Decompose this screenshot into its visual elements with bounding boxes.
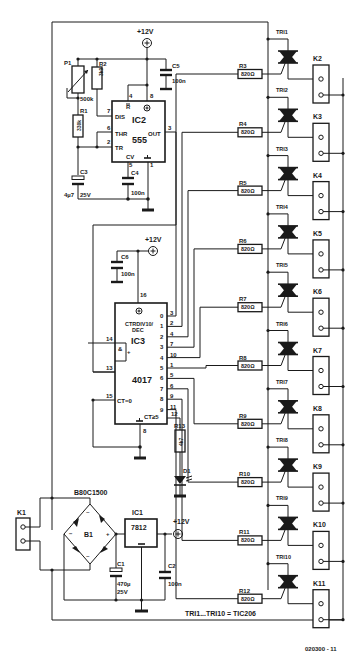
svg-text:B80C1500: B80C1500 <box>74 489 108 496</box>
schematic: +12V C5 100n 4 8 R DIS IC2 THR OUT 555 T… <box>0 0 363 668</box>
svg-text:R3: R3 <box>239 63 247 69</box>
power-supply-section: B80C1500 K1 B1 − + ~ ~ C1 470µ <box>16 489 190 620</box>
svg-text:R11: R11 <box>239 529 250 535</box>
svg-text:820Ω: 820Ω <box>241 363 255 369</box>
svg-text:C2: C2 <box>168 563 176 569</box>
svg-text:820Ω: 820Ω <box>241 304 255 310</box>
svg-text:15: 15 <box>106 393 113 399</box>
svg-text:4017: 4017 <box>132 375 152 385</box>
ic3-output-pin: 10 <box>170 352 177 358</box>
svg-text:2: 2 <box>107 139 111 145</box>
svg-text:3k9: 3k9 <box>98 67 104 76</box>
svg-text:CT=0: CT=0 <box>117 398 133 404</box>
svg-text:R7: R7 <box>239 296 247 302</box>
svg-text:CV: CV <box>126 154 134 160</box>
svg-text:~: ~ <box>86 509 90 515</box>
svg-text:K3: K3 <box>313 113 322 120</box>
ic3-output-pin: 4 <box>170 331 174 337</box>
svg-text:TRI4: TRI4 <box>276 204 289 210</box>
svg-text:R4: R4 <box>239 121 247 127</box>
svg-text:K9: K9 <box>313 463 322 470</box>
svg-text:DIS: DIS <box>115 114 125 120</box>
svg-text:D1: D1 <box>183 468 191 474</box>
svg-text:330k: 330k <box>76 120 82 131</box>
svg-text:820Ω: 820Ω <box>241 479 255 485</box>
svg-text:3: 3 <box>168 125 172 131</box>
ic3-output-pin: 3 <box>170 310 174 316</box>
svg-text:R5: R5 <box>239 180 247 186</box>
svg-text:IC1: IC1 <box>132 509 143 516</box>
svg-text:C1: C1 <box>117 561 125 567</box>
svg-text:K7: K7 <box>313 347 322 354</box>
svg-text:TRI8: TRI8 <box>276 437 288 443</box>
ic3-output-pin: 2 <box>170 320 174 326</box>
ic3-output-pin: 7 <box>170 341 174 347</box>
svg-text:K5: K5 <box>313 230 322 237</box>
svg-text:1: 1 <box>150 162 154 168</box>
svg-text:+: + <box>127 349 131 355</box>
svg-text:820Ω: 820Ω <box>241 421 255 427</box>
svg-text:R12: R12 <box>239 588 251 594</box>
svg-text:OUT: OUT <box>148 131 161 137</box>
figure-id: 020300 - 11 <box>305 646 337 652</box>
svg-text:820Ω: 820Ω <box>241 246 255 252</box>
svg-text:7812: 7812 <box>131 524 147 531</box>
svg-text:B1: B1 <box>84 531 93 538</box>
svg-text:12: 12 <box>171 411 178 417</box>
svg-text:TRI2: TRI2 <box>276 87 288 93</box>
ic3-output-pin: 11 <box>170 404 177 410</box>
svg-text:K4: K4 <box>313 172 322 179</box>
svg-text:R8: R8 <box>239 355 247 361</box>
svg-text:CT≥5: CT≥5 <box>144 414 159 420</box>
svg-text:470µ: 470µ <box>117 581 131 587</box>
svg-text:4k7: 4k7 <box>178 437 184 446</box>
svg-text:+12V: +12V <box>173 518 190 525</box>
svg-text:820Ω: 820Ω <box>241 596 255 602</box>
svg-text:K2: K2 <box>313 55 322 62</box>
svg-text:R6: R6 <box>239 238 247 244</box>
svg-text:R: R <box>126 104 131 110</box>
frame-wires <box>52 22 343 620</box>
svg-text:K11: K11 <box>313 580 326 587</box>
svg-text:100n: 100n <box>121 271 135 277</box>
svg-text:820Ω: 820Ω <box>241 188 255 194</box>
svg-text:TRI7: TRI7 <box>276 379 288 385</box>
svg-text:R2: R2 <box>99 61 107 67</box>
ic3-output-pin: 1 <box>170 362 174 368</box>
svg-text:−: − <box>69 531 73 537</box>
svg-text:C6: C6 <box>121 254 129 260</box>
supply-label-top: +12V <box>137 28 154 35</box>
svg-text:C4: C4 <box>131 170 139 176</box>
svg-text:C3: C3 <box>80 169 88 175</box>
svg-text:TR: TR <box>115 145 124 151</box>
svg-text:6: 6 <box>107 125 111 131</box>
svg-text:K6: K6 <box>313 288 322 295</box>
svg-text:100n: 100n <box>131 190 145 196</box>
svg-text:TRI6: TRI6 <box>276 321 288 327</box>
svg-text:P1: P1 <box>64 60 72 66</box>
svg-text:IC3: IC3 <box>131 336 145 346</box>
svg-text:14: 14 <box>106 336 113 342</box>
svg-text:TRI3: TRI3 <box>276 146 288 152</box>
svg-text:500k: 500k <box>80 96 94 102</box>
ic3-output-pin: 5 <box>170 372 174 378</box>
svg-text:R1: R1 <box>80 108 88 114</box>
svg-text:THR: THR <box>115 131 128 137</box>
svg-text:100n: 100n <box>168 581 182 587</box>
svg-text:R10: R10 <box>239 471 251 477</box>
svg-text:TRI9: TRI9 <box>276 495 288 501</box>
svg-text:4: 4 <box>129 93 133 99</box>
svg-text:16: 16 <box>140 292 147 298</box>
svg-text:820Ω: 820Ω <box>241 71 255 77</box>
svg-text:8: 8 <box>143 428 147 434</box>
svg-text:25V: 25V <box>80 192 91 198</box>
svg-text:+: + <box>106 531 110 537</box>
svg-text:TRI5: TRI5 <box>276 262 288 268</box>
svg-text:7: 7 <box>107 108 111 114</box>
ic3-output-pin: 9 <box>170 393 174 399</box>
svg-text:&: & <box>118 346 123 352</box>
svg-text:100n: 100n <box>172 78 186 84</box>
svg-text:DEC: DEC <box>132 327 144 333</box>
svg-text:R9: R9 <box>239 413 247 419</box>
svg-text:IC2: IC2 <box>132 115 146 125</box>
